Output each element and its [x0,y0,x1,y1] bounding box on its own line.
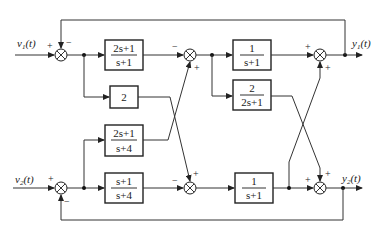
s4-sign-left: + [48,173,54,184]
branch-dot-h2 [287,186,291,190]
feedback-y1 [61,20,345,55]
summing-junction-s5 [184,182,196,194]
svg-text:s+1: s+1 [116,56,132,68]
block-2-over-2s+1: 2 2s+1 [233,80,271,110]
svg-text:s+1: s+1 [246,189,262,201]
svg-text:s+4: s+4 [116,189,132,201]
summing-junction-s3 [314,49,326,61]
block-2s+1-over-s+4: 2s+1 s+4 [105,125,143,156]
s1-sign-left: + [47,40,53,51]
branch-dot-v2 [82,186,86,190]
s2-sign-bottom: + [194,62,200,73]
block-1-over-s+1-bottom: 1 s+1 [235,173,273,203]
svg-text:s+1: s+1 [244,56,260,68]
s6-sign-left: + [305,174,311,185]
svg-text:1: 1 [249,42,255,54]
summing-junction-s4 [55,182,67,194]
block-s+1-over-s+4: s+1 s+4 [105,173,143,203]
s3-sign-left: + [305,41,311,52]
block-gain-2: 2 [110,86,138,108]
summing-junction-s6 [314,182,326,194]
svg-text:2s+1: 2s+1 [241,96,262,108]
svg-text:1: 1 [251,175,257,187]
summing-junction-s2 [184,49,196,61]
y2-label: y2(t) [341,172,361,186]
block-2s+1-over-s+1: 2s+1 s+1 [105,40,143,70]
s1-sign-top: − [66,37,72,48]
s4-sign-bottom: − [64,196,70,207]
s5-sign-top: + [193,168,199,179]
s6-sign-top: + [325,168,331,179]
svg-text:2s+1: 2s+1 [113,127,134,139]
block-diagram: v1(t) + − 2s+1 s+1 − + 1 s+1 + + [0,0,381,234]
s2-sign-left: − [172,41,178,52]
svg-text:2: 2 [121,91,127,103]
svg-text:2: 2 [249,82,255,94]
svg-text:2s+1: 2s+1 [113,42,134,54]
v1-label: v1(t) [17,37,36,51]
svg-text:s+1: s+1 [116,175,132,187]
s3-sign-bottom: + [325,62,331,73]
y1-label: y1(t) [351,37,371,51]
svg-text:s+4: s+4 [116,142,132,154]
summing-junction-s1 [55,49,67,61]
block-1-over-s+1-top: 1 s+1 [233,40,271,70]
s5-sign-left: − [172,175,178,186]
feedback-y2 [61,188,343,220]
v2-label: v2(t) [15,173,34,187]
